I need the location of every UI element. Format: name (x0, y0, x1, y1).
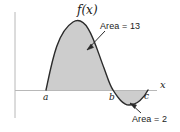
curve-label-fx: f(x) (77, 4, 98, 16)
x-tick-label-a: a (43, 93, 48, 102)
x-tick-label-c: c (144, 92, 149, 101)
annotation-area-negative: Area = 2 (132, 115, 167, 124)
area-negative-leader-arrow (130, 103, 141, 113)
area-under-curve-figure: f(x) a b c x Area = 13 Area = 2 (0, 0, 180, 132)
x-tick-label-b: b (109, 93, 115, 102)
figure-canvas (0, 0, 180, 132)
x-axis-label: x (160, 80, 166, 90)
annotation-area-positive: Area = 13 (100, 22, 140, 31)
